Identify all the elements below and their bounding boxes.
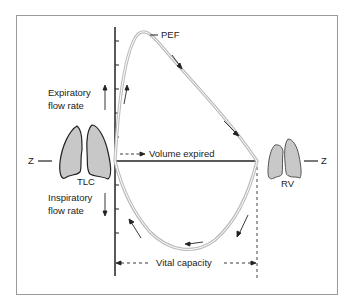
inspiratory-label-line2: flow rate <box>48 205 84 217</box>
z-right-label: Z <box>321 155 327 167</box>
rv-lungs-icon <box>268 139 301 179</box>
flow-volume-loop <box>115 32 257 250</box>
pef-label: PEF <box>161 29 179 41</box>
expiratory-label-line1: Expiratory <box>48 87 91 99</box>
volume-expired-arrow <box>120 152 145 156</box>
vital-capacity-label: Vital capacity <box>156 257 212 269</box>
rv-label: RV <box>281 178 294 190</box>
inspiratory-label-line1: Inspiratory <box>48 192 92 204</box>
expiratory-label-line2: flow rate <box>48 100 84 112</box>
tlc-label: TLC <box>77 176 95 188</box>
z-left-label: Z <box>28 155 34 167</box>
volume-expired-label: Volume expired <box>149 148 214 160</box>
tlc-lungs-icon <box>60 125 111 179</box>
